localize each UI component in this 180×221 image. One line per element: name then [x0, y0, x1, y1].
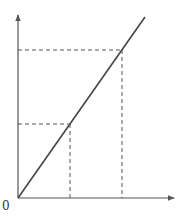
origin-label: 0: [2, 199, 10, 213]
linear-line: [18, 17, 145, 198]
graph-canvas: [0, 0, 180, 221]
